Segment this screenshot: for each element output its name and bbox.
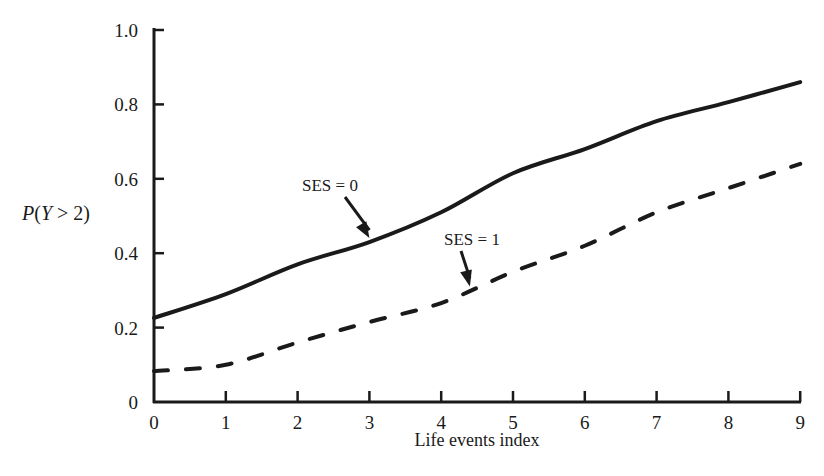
y-ticks: 00.20.40.60.81.0 <box>114 20 164 413</box>
series-lines <box>154 82 800 371</box>
y-tick-label: 0.6 <box>114 169 138 190</box>
axes <box>153 28 801 403</box>
y-tick-label: 1.0 <box>114 20 138 41</box>
x-tick-label: 1 <box>221 412 231 433</box>
y-tick-label: 0.2 <box>114 318 138 339</box>
annotation-ses-0: SES = 0 <box>302 176 358 195</box>
x-tick-label: 6 <box>580 412 590 433</box>
x-tick-label: 8 <box>724 412 734 433</box>
x-tick-label: 0 <box>149 412 159 433</box>
y-tick-label: 0.8 <box>114 94 138 115</box>
arrowhead-icon <box>460 269 472 286</box>
y-axis-title: P(Y > 2) <box>21 202 90 225</box>
series-ses-1-line <box>154 164 800 371</box>
line-chart: 00.20.40.60.81.0 0123456789 SES = 0SES =… <box>0 0 824 476</box>
y-tick-label: 0 <box>129 392 139 413</box>
annotation-ses-1: SES = 1 <box>444 230 500 249</box>
x-tick-label: 7 <box>652 412 662 433</box>
x-tick-label: 9 <box>795 412 805 433</box>
y-tick-label: 0.4 <box>114 243 138 264</box>
x-ticks: 0123456789 <box>149 391 805 433</box>
series-ses-0-line <box>154 82 800 318</box>
x-axis-title: Life events index <box>415 430 540 450</box>
arrowhead-icon <box>356 221 369 238</box>
x-tick-label: 2 <box>293 412 303 433</box>
x-tick-label: 3 <box>365 412 375 433</box>
